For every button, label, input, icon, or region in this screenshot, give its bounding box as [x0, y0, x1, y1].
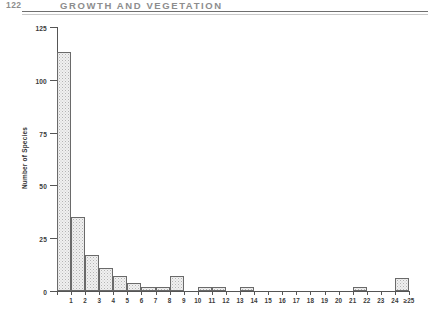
y-tick-label: 25: [39, 236, 47, 243]
x-tick-label: 9: [182, 297, 186, 304]
x-tick: [282, 291, 283, 295]
x-tick-label: 23: [377, 297, 384, 304]
x-tick: [353, 291, 354, 295]
histogram-bars: [57, 27, 409, 291]
x-tick-label: 3: [97, 297, 101, 304]
x-tick-label: 14: [251, 297, 258, 304]
page-folio: 122: [6, 0, 21, 10]
histogram-bar: [57, 52, 71, 291]
figure-page: 122 GROWTH AND VEGETATION Number of Spec…: [0, 0, 439, 325]
y-tick: 125: [50, 27, 57, 28]
x-tick-label: 17: [293, 297, 300, 304]
histogram-bar: [198, 287, 212, 291]
x-tick: [99, 291, 100, 295]
x-tick-label: 6: [140, 297, 144, 304]
y-tick-label: 125: [35, 25, 47, 32]
histogram-bar: [113, 276, 127, 291]
x-tick: [127, 291, 128, 295]
x-tick-label: 5: [126, 297, 130, 304]
y-tick-label: 0: [43, 289, 47, 296]
y-tick-label: 100: [35, 77, 47, 84]
x-tick-label: 19: [321, 297, 328, 304]
y-tick: 75: [50, 133, 57, 134]
x-tick-label: 11: [208, 297, 215, 304]
y-tick-label: 50: [39, 183, 47, 190]
x-tick: [226, 291, 227, 295]
x-tick-origin: [57, 291, 58, 295]
x-tick-label: 12: [222, 297, 229, 304]
x-tick: [367, 291, 368, 295]
x-tick: [296, 291, 297, 295]
histogram-bar: [71, 217, 85, 291]
x-tick-label: 4: [112, 297, 116, 304]
x-tick: [395, 291, 396, 295]
x-tick: [325, 291, 326, 295]
x-tick-label: 8: [168, 297, 172, 304]
x-tick-label: 2: [83, 297, 87, 304]
histogram-bar: [395, 278, 409, 291]
x-tick: [156, 291, 157, 295]
histogram-bar: [127, 283, 141, 291]
x-tick-label: 13: [236, 297, 243, 304]
x-tick-label: ≥25: [404, 297, 415, 304]
histogram-bar: [170, 276, 184, 291]
x-tick-label: 24: [391, 297, 398, 304]
x-tick-label: 18: [307, 297, 314, 304]
x-tick: [240, 291, 241, 295]
x-tick: [310, 291, 311, 295]
histogram-bar: [353, 287, 367, 291]
y-axis-title: Number of Species: [21, 127, 28, 189]
x-tick: [141, 291, 142, 295]
x-tick: [113, 291, 114, 295]
x-tick: [198, 291, 199, 295]
y-tick: 0: [50, 291, 57, 292]
x-tick: [212, 291, 213, 295]
x-tick: [409, 291, 410, 295]
header-rule: [22, 11, 428, 12]
x-tick: [254, 291, 255, 295]
histogram-bar: [141, 287, 155, 291]
header-rule-shadow: [22, 14, 428, 15]
x-tick: [71, 291, 72, 295]
x-tick: [184, 291, 185, 295]
x-tick-label: 15: [265, 297, 272, 304]
y-tick-label: 75: [39, 130, 47, 137]
x-tick-label: 10: [194, 297, 201, 304]
histogram-bar: [85, 255, 99, 291]
x-tick: [85, 291, 86, 295]
x-tick-label: 21: [349, 297, 356, 304]
x-tick: [339, 291, 340, 295]
y-tick: 100: [50, 80, 57, 81]
x-tick-label: 16: [279, 297, 286, 304]
x-tick-label: 7: [154, 297, 158, 304]
x-tick-label: 20: [335, 297, 342, 304]
y-tick: 25: [50, 238, 57, 239]
histogram-bar: [240, 287, 254, 291]
x-tick-label: 1: [69, 297, 73, 304]
y-tick: 50: [50, 185, 57, 186]
running-head-title: GROWTH AND VEGETATION: [60, 0, 223, 11]
x-tick: [381, 291, 382, 295]
histogram-bar: [99, 268, 113, 291]
x-tick: [268, 291, 269, 295]
x-tick-label: 22: [363, 297, 370, 304]
x-axis-line: [57, 291, 409, 292]
x-tick: [170, 291, 171, 295]
histogram-bar: [156, 287, 170, 291]
histogram-bar: [212, 287, 226, 291]
